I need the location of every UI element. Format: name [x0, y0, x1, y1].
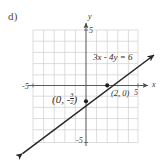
point-marker-y-intercept: [84, 99, 88, 103]
tick-label-x-positive: 5: [134, 88, 138, 97]
point-label-open: (0, -: [52, 93, 70, 105]
y-axis-label: y: [88, 12, 92, 21]
point-label-y-intercept: (0, -32): [52, 92, 77, 107]
graph-figure: d): [0, 0, 164, 161]
point-marker-x-intercept: [105, 83, 109, 87]
tick-label-y-positive: 5: [89, 26, 93, 35]
point-label-x-intercept: (2, 0): [111, 88, 129, 98]
tick-label-y-negative: -5: [76, 136, 83, 145]
fraction-denominator: 2: [70, 98, 73, 106]
tick-label-x-negative: -5: [22, 82, 29, 91]
point-label-close: ): [74, 93, 78, 105]
fraction-three-halves: 32: [70, 92, 73, 107]
fraction-numerator: 3: [70, 92, 73, 99]
equation-annotation: 3x - 4y = 6: [93, 52, 133, 62]
graph-line: [23, 55, 155, 154]
x-axis-label: x: [152, 80, 156, 89]
